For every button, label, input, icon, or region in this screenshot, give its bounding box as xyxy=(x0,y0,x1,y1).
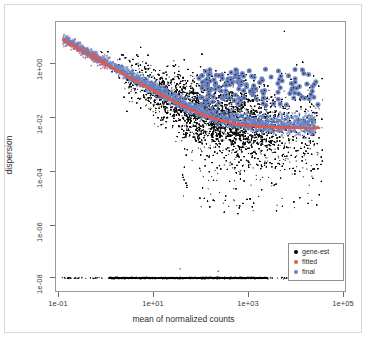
y-tick-mark-1e-02 xyxy=(50,117,55,118)
y-tick-mark-1e+00 xyxy=(50,63,55,64)
x-axis-label: mean of normalized counts xyxy=(0,314,367,324)
y-tick-label-text: 1e-08 xyxy=(35,277,44,294)
y-tick-label-text: 1e-06 xyxy=(35,225,44,242)
legend-label-final: final xyxy=(302,267,315,277)
legend: gene-est fitted final xyxy=(288,243,344,281)
legend-label-fitted: fitted xyxy=(302,257,317,267)
y-tick-label-text: 1e-02 xyxy=(35,117,44,134)
x-tick-mark-1e+03 xyxy=(248,292,249,297)
y-tick-label-2: 1e-02 xyxy=(14,111,48,122)
legend-item-gene-est: gene-est xyxy=(292,247,340,257)
x-tick-label-1: 1e-01 xyxy=(48,299,68,308)
x-tick-label-3: 1e+03 xyxy=(237,299,259,308)
y-tick-mark-1e-08 xyxy=(50,277,55,278)
legend-item-fitted: fitted xyxy=(292,257,340,267)
legend-label-gene-est: gene-est xyxy=(302,247,329,257)
y-tick-label-3: 1e-04 xyxy=(14,165,48,176)
x-tick-label-4: 1e+05 xyxy=(332,299,354,308)
x-tick-mark-1e+05 xyxy=(343,292,344,297)
y-axis-label: dispersion xyxy=(4,115,14,195)
y-tick-label-text: 1e-04 xyxy=(35,171,44,188)
legend-marker-gene-est xyxy=(294,250,298,254)
x-tick-mark-1e-01 xyxy=(58,292,59,297)
y-tick-label-5: 1e-08 xyxy=(14,271,48,282)
dispersion-plot-figure: 1e+00 1e-02 1e-04 1e-06 1e-08 1e-01 1e+0… xyxy=(0,0,367,338)
legend-marker-fitted xyxy=(294,260,298,264)
y-tick-label-1: 1e+00 xyxy=(14,57,48,68)
x-tick-mark-1e+01 xyxy=(153,292,154,297)
y-tick-mark-1e-04 xyxy=(50,171,55,172)
y-tick-label-text: 1e+00 xyxy=(35,63,44,80)
y-tick-label-4: 1e-06 xyxy=(14,219,48,230)
legend-item-final: final xyxy=(292,267,340,277)
x-tick-label-2: 1e+01 xyxy=(142,299,164,308)
legend-marker-final xyxy=(294,270,298,274)
y-tick-mark-1e-06 xyxy=(50,225,55,226)
